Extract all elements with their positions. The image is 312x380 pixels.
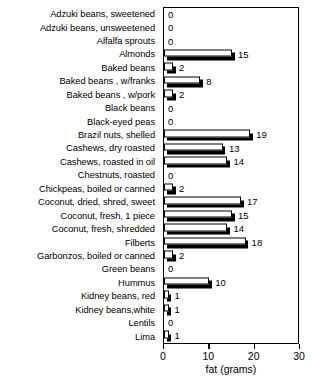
bar [164,197,244,208]
x-axis-tick [163,344,164,349]
category-label: Coconut, fresh, shredded [0,223,158,236]
category-label: Brazil nuts, shelled [0,129,158,142]
bar-face [164,63,173,71]
bar-row: 14 [164,223,298,236]
bar [164,331,172,342]
bar-value-label: 15 [238,211,249,221]
bar-row: 14 [164,155,298,168]
bar-row: 1 [164,290,298,303]
bar-value-label: 14 [233,157,244,167]
bar-row: 2 [164,249,298,262]
bar-row: 0 [164,115,298,128]
category-label-column: Adzuki beans, sweetenedAdzuki beans, uns… [0,8,158,344]
bar [164,76,203,87]
category-label: Chestnuts, roasted [0,169,158,182]
category-label: Coconut, fresh, 1 piece [0,210,158,223]
bar [164,49,235,60]
category-label: Garbonzos, boiled or canned [0,250,158,263]
bar-value-label: 0 [168,10,173,20]
bar-row: 0 [164,8,298,21]
x-axis-tick-label: 10 [202,351,214,362]
category-label: Baked beans [0,62,158,75]
bar-face [164,130,250,138]
bar [164,183,176,194]
category-label: Green beans [0,263,158,276]
bar-value-label: 8 [206,77,211,87]
bar-value-label: 2 [179,251,184,261]
bar-value-label: 0 [168,104,173,114]
bar-value-label: 19 [256,131,267,141]
bar-row: 0 [164,169,298,182]
x-axis-tick [254,344,255,349]
bar-face [164,237,246,245]
bar-face [164,157,227,165]
bar-row: 15 [164,48,298,61]
bar [164,277,212,288]
bar-row: 10 [164,276,298,289]
plot-frame: 0001528200191314021715141820101101 [163,7,299,344]
bar-face [164,197,241,205]
bar-value-label: 1 [175,332,180,342]
bar-value-label: 0 [168,23,173,33]
bar-row: 19 [164,129,298,142]
bar [164,237,249,248]
bar-face [164,210,232,218]
bar-row: 1 [164,330,298,343]
bar-value-label: 13 [229,144,240,154]
bar-face [164,183,173,191]
bar-value-label: 2 [179,64,184,74]
bar-face [164,277,209,285]
bar [164,251,176,262]
category-label: Cashews, roasted in oil [0,156,158,169]
bar-value-label: 17 [247,198,258,208]
category-label: Chickpeas, boiled or canned [0,183,158,196]
bar [164,210,235,221]
category-label: Black-eyed peas [0,116,158,129]
category-label: Kidney beans, red [0,290,158,303]
category-label: Lentils [0,317,158,330]
bar-row: 2 [164,62,298,75]
bar-face [164,90,173,98]
bar [164,63,176,74]
bar-row: 0 [164,263,298,276]
bar-value-label: 2 [179,184,184,194]
bar-value-label: 0 [168,171,173,181]
x-axis-tick [208,344,209,349]
bar-face [164,76,200,84]
bar-face [164,331,169,339]
category-label: Adzuki beans, unsweetened [0,21,158,34]
bar-value-label: 15 [238,50,249,60]
bars-layer: 0001528200191314021715141820101101 [164,8,298,343]
bar-row: 2 [164,88,298,101]
category-label: Baked beans , w/franks [0,75,158,88]
bar [164,130,253,141]
bar-value-label: 1 [175,305,180,315]
category-label: Cashews, dry roasted [0,142,158,155]
bar [164,157,230,168]
bar-value-label: 0 [168,117,173,127]
bar [164,304,172,315]
fat-grams-bar-chart: Adzuki beans, sweetenedAdzuki beans, uns… [0,0,312,380]
bar-face [164,291,169,299]
bar-value-label: 0 [168,265,173,275]
bar-row: 0 [164,35,298,48]
bar-face [164,143,223,151]
bar-value-label: 1 [175,291,180,301]
category-label: Baked beans , w/pork [0,89,158,102]
category-label: Hummus [0,277,158,290]
category-label: Black beans [0,102,158,115]
bar-value-label: 0 [168,37,173,47]
bar [164,90,176,101]
bar-row: 0 [164,102,298,115]
category-label: Alfalfa sprouts [0,35,158,48]
x-axis: 0102030 [163,344,299,345]
category-label: Coconut, dried, shred, sweet [0,196,158,209]
x-axis-tick [299,344,300,349]
bar-row: 17 [164,196,298,209]
bar-face [164,49,232,57]
bar-value-label: 14 [233,224,244,234]
bar [164,291,172,302]
bar-row: 2 [164,182,298,195]
bar-face [164,304,169,312]
bar-row: 15 [164,209,298,222]
